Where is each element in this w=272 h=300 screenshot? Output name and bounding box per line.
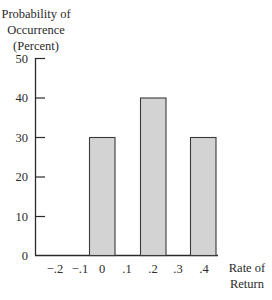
y-ticks xyxy=(35,59,45,217)
y-tick-label-20: 20 xyxy=(16,170,29,184)
y-tick-label-40: 40 xyxy=(16,91,29,105)
y-tick-label-10: 10 xyxy=(16,210,29,224)
x-tick-label-0.1: .1 xyxy=(122,262,131,276)
x-tick-label-neg-0.2: −.2 xyxy=(47,262,63,276)
bar-0 xyxy=(90,138,116,256)
x-axis-title-line-2: Return xyxy=(222,276,272,292)
x-tick-label-0.3: .3 xyxy=(173,262,182,276)
x-axis-title-line-1: Rate of xyxy=(222,260,272,276)
chart-plot: 50 40 30 20 10 0 −.2 −.1 0 .1 .2 .3 .4 xyxy=(0,0,272,300)
y-tick-label-30: 30 xyxy=(16,131,29,145)
bar-0.4 xyxy=(191,138,217,256)
x-tick-label-0.2: .2 xyxy=(148,262,157,276)
x-tick-label-neg-0.1: −.1 xyxy=(72,262,88,276)
x-axis-title: Rate of Return xyxy=(222,260,272,292)
bar-0.2 xyxy=(141,98,167,256)
x-tick-label-0.4: .4 xyxy=(199,262,209,276)
y-tick-label-0: 0 xyxy=(22,249,28,263)
y-tick-label-50: 50 xyxy=(16,52,29,66)
x-tick-label-0: 0 xyxy=(99,262,105,276)
